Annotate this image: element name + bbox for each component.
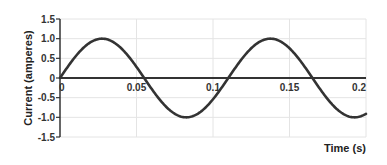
y-tick-label: 1.5 bbox=[41, 14, 55, 25]
y-tick-label: -1.0 bbox=[38, 112, 56, 123]
x-tick-label: 0.2 bbox=[352, 82, 366, 93]
y-tick-label: -1.5 bbox=[38, 132, 56, 143]
y-tick-label: 1.0 bbox=[41, 33, 55, 44]
current-vs-time-chart: 1.51.00.50-0.5-1.0-1.5 00.050.10.150.2 C… bbox=[0, 0, 387, 165]
x-tick-label: 0.15 bbox=[280, 82, 300, 93]
y-tick-label: 0 bbox=[49, 73, 55, 84]
y-tick-label: 0.5 bbox=[41, 53, 55, 64]
y-axis-label: Current (amperes) bbox=[22, 30, 34, 126]
y-tick-label: -0.5 bbox=[38, 92, 56, 103]
x-tick-label: 0.05 bbox=[127, 82, 147, 93]
y-axis-ticks: 1.51.00.50-0.5-1.0-1.5 bbox=[38, 14, 60, 143]
x-axis-label: Time (s) bbox=[324, 142, 366, 154]
